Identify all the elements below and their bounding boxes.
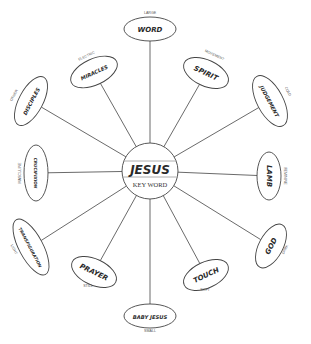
- node-quality-label: SOFT: [200, 288, 210, 292]
- node-lamb: LAMBFEMININE: [257, 152, 287, 200]
- node-word: WORD: [138, 26, 163, 34]
- node-disciples: DISCIPLESOTHER: [8, 72, 55, 131]
- node-quality-label: MASCULINE: [18, 162, 22, 184]
- spoke-line-god: [174, 186, 261, 240]
- spoke-line-spirit: [164, 84, 200, 146]
- node-judgement: JUDGEMENTCOLD: [245, 70, 294, 132]
- node-quality-label: FEMININE: [283, 167, 287, 185]
- node-word: BABY JESUS: [133, 314, 168, 321]
- node-quality-label: LARGE: [144, 11, 157, 15]
- node-prayer: PRAYERSTILL: [67, 250, 121, 294]
- spoke-line-crucifixion: [48, 171, 122, 172]
- node-quality-label: COLD: [284, 86, 292, 97]
- center-key-word: JESUS: [128, 163, 170, 177]
- spoke-line-prayer: [100, 195, 136, 260]
- node-god: GODDARK: [249, 219, 293, 273]
- node-quality-label: OTHER: [9, 89, 19, 102]
- node-quality-label: STILL: [83, 284, 93, 288]
- spoke-line-transfiguration: [41, 186, 126, 240]
- node-word: CRUCIFIXION: [33, 158, 38, 189]
- node-spirit: SPIRITMOVEMENT: [179, 49, 233, 95]
- spoke-line-disciples: [41, 107, 126, 157]
- spoke-line-judgement: [174, 108, 259, 157]
- spoke-line-miracles: [100, 83, 136, 146]
- center-key-word-node: JESUS KEY WORD: [122, 143, 178, 199]
- node-baby-jesus: BABY JESUSSMALL: [124, 304, 176, 333]
- spoke-line-lamb: [178, 172, 257, 175]
- node-quality-label: SMALL: [144, 329, 156, 333]
- word-association-diagram: WORDLARGESPIRITMOVEMENTJUDGEMENTCOLDLAMB…: [0, 0, 311, 344]
- spoke-line-touch: [163, 196, 200, 264]
- node-crucifixion: CRUCIFIXIONMASCULINE: [18, 145, 48, 201]
- center-key-word-caption: KEY WORD: [133, 181, 168, 188]
- node-word: WORDLARGE: [124, 11, 176, 41]
- node-touch: TOUCHSOFT: [179, 253, 233, 297]
- node-miracles: MIRACLESELECTRIC: [66, 50, 122, 95]
- node-transfiguration: TRANSFIGURATIONLIGHT: [6, 214, 56, 280]
- node-word: LAMB: [265, 165, 273, 187]
